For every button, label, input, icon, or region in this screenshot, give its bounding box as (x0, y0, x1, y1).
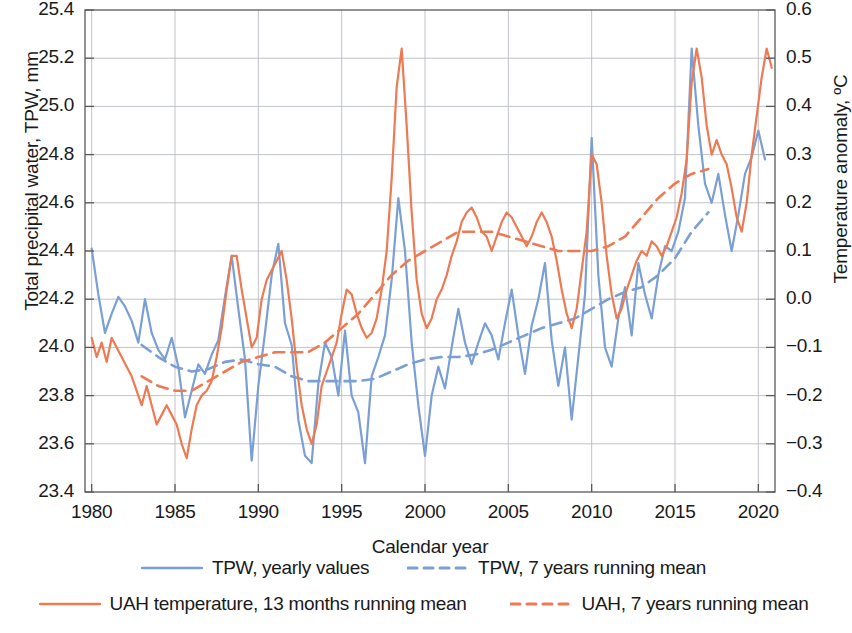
legend-row-2: UAH temperature, 13 months running mean … (0, 593, 847, 615)
legend-swatch-dashed-icon (407, 561, 469, 575)
legend-item-tpw-yearly: TPW, yearly values (141, 557, 369, 579)
legend-label: TPW, 7 years running mean (478, 557, 706, 579)
legend-label: TPW, yearly values (212, 557, 369, 579)
data-series (92, 49, 772, 464)
series-path-0 (92, 49, 765, 464)
chart-legend: TPW, yearly values TPW, 7 years running … (0, 557, 847, 629)
legend-item-uah-13month: UAH temperature, 13 months running mean (39, 593, 467, 615)
legend-label: UAH temperature, 13 months running mean (110, 593, 467, 615)
legend-swatch-solid-icon (141, 561, 203, 575)
legend-row-1: TPW, yearly values TPW, 7 years running … (0, 557, 847, 579)
legend-item-uah-running-mean: UAH, 7 years running mean (510, 593, 808, 615)
legend-item-tpw-running-mean: TPW, 7 years running mean (407, 557, 706, 579)
legend-swatch-solid-icon (39, 597, 101, 611)
legend-label: UAH, 7 years running mean (581, 593, 808, 615)
legend-swatch-dashed-icon (510, 597, 572, 611)
